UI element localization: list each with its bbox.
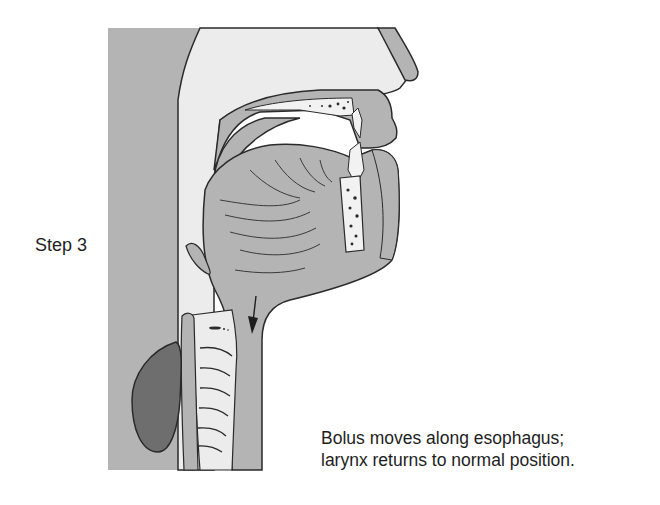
step-label: Step 3	[35, 235, 87, 256]
caption-line-2: larynx returns to normal position.	[321, 449, 575, 471]
caption-line-1: Bolus moves along esophagus;	[321, 427, 575, 449]
caption: Bolus moves along esophagus; larynx retu…	[321, 427, 575, 471]
